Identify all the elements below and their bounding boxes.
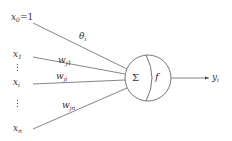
bias-weight-label: θi xyxy=(79,32,86,42)
edge-x1 xyxy=(33,57,125,74)
edge-xn xyxy=(33,88,127,129)
neuron-diagram: x0=1 θi x1 wj1 xi wji xn wjn Σ f yi xyxy=(0,0,232,141)
activation-symbol: f xyxy=(155,72,159,82)
input-label-x1: x1 xyxy=(13,50,22,60)
ellipsis-dots-lower xyxy=(17,100,19,109)
summation-symbol: Σ xyxy=(132,73,139,83)
input-label-xi: xi xyxy=(13,78,20,88)
diagram-svg xyxy=(0,0,232,141)
ellipsis-dots-upper xyxy=(17,64,19,73)
bias-edge xyxy=(33,23,127,69)
bias-input-label: x0=1 xyxy=(11,13,33,23)
output-label: yi xyxy=(212,73,219,83)
weight-label-ji: wji xyxy=(56,72,68,82)
weight-label-j1: wj1 xyxy=(58,56,71,66)
weight-label-jn: wjn xyxy=(62,101,75,111)
input-label-xn: xn xyxy=(13,124,22,134)
edge-xi xyxy=(33,80,125,84)
